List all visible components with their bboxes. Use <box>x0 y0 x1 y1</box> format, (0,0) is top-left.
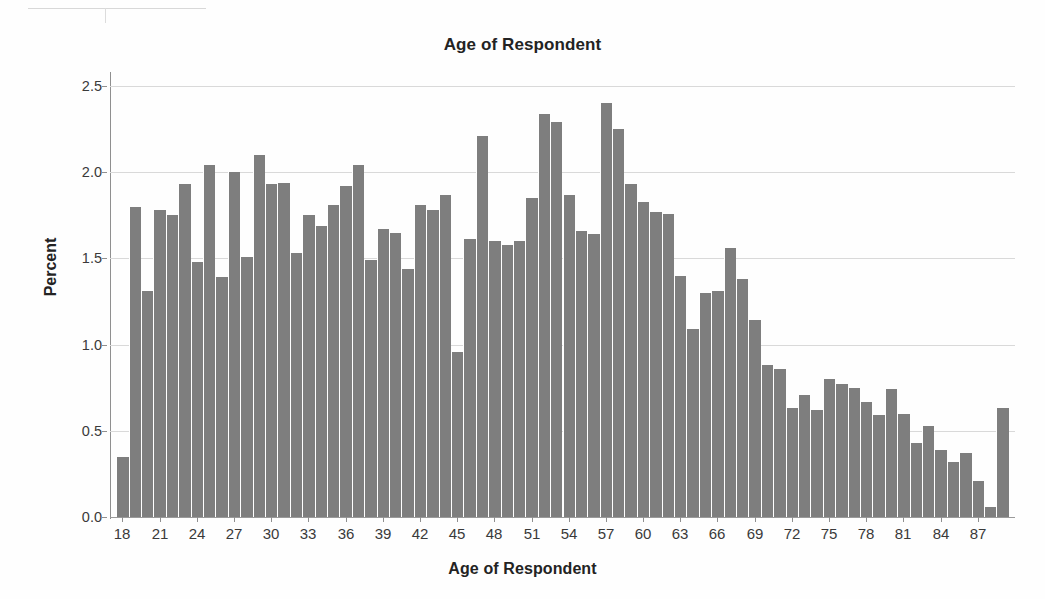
bar-age-66 <box>711 291 723 517</box>
bar-age-30 <box>265 184 277 517</box>
bar-age-31 <box>277 183 289 517</box>
bar-age-34 <box>315 226 327 517</box>
x-tick-label-42: 42 <box>400 526 440 541</box>
x-tick-label-69: 69 <box>735 526 775 541</box>
x-tick-label-84: 84 <box>921 526 961 541</box>
bar-age-43 <box>426 210 438 517</box>
bar-age-51 <box>525 198 537 517</box>
bar-age-45 <box>451 352 463 518</box>
bar-age-80 <box>885 389 897 517</box>
bar-age-84 <box>934 450 946 517</box>
y-tick-label-1.5: 1.5 <box>58 251 102 266</box>
bar-age-49 <box>501 245 513 517</box>
x-tick-mark-66 <box>717 517 718 522</box>
bar-age-71 <box>773 369 785 517</box>
bar-age-85 <box>947 462 959 517</box>
bar-age-33 <box>302 215 314 517</box>
bar-age-76 <box>835 384 847 517</box>
bar-age-69 <box>748 320 760 517</box>
bar-age-68 <box>736 279 748 517</box>
x-tick-label-60: 60 <box>623 526 663 541</box>
bar-age-36 <box>339 186 351 517</box>
x-tick-label-57: 57 <box>586 526 626 541</box>
bar-age-62 <box>662 214 674 517</box>
x-tick-label-78: 78 <box>846 526 886 541</box>
bar-age-32 <box>290 253 302 517</box>
y-tick-mark-2.5 <box>102 86 107 87</box>
bar-age-60 <box>637 202 649 517</box>
y-axis-tick-labels: 0.00.51.01.52.02.5 <box>52 86 102 517</box>
gridline-2.0 <box>110 172 1015 173</box>
bar-age-53 <box>550 122 562 517</box>
bar-age-86 <box>959 453 971 517</box>
x-tick-mark-75 <box>829 517 830 522</box>
x-tick-mark-81 <box>903 517 904 522</box>
bar-age-81 <box>897 414 909 517</box>
y-tick-mark-1.5 <box>102 258 107 259</box>
y-tick-label-0.5: 0.5 <box>58 424 102 439</box>
x-tick-label-75: 75 <box>809 526 849 541</box>
bar-age-89 <box>996 408 1008 517</box>
plot-area <box>110 86 1015 517</box>
bar-age-73 <box>798 395 810 517</box>
bar-age-35 <box>327 205 339 517</box>
y-tick-label-1.0: 1.0 <box>58 338 102 353</box>
x-tick-mark-24 <box>197 517 198 522</box>
x-tick-label-33: 33 <box>288 526 328 541</box>
x-tick-mark-21 <box>160 517 161 522</box>
x-tick-mark-48 <box>494 517 495 522</box>
bar-age-56 <box>587 234 599 517</box>
bar-age-77 <box>848 388 860 517</box>
bar-age-39 <box>377 229 389 517</box>
bar-age-75 <box>823 379 835 517</box>
bar-age-27 <box>228 172 240 517</box>
bar-age-64 <box>686 329 698 517</box>
x-axis-title: Age of Respondent <box>0 560 1045 578</box>
x-tick-label-45: 45 <box>437 526 477 541</box>
bar-age-20 <box>141 291 153 517</box>
x-tick-label-51: 51 <box>512 526 552 541</box>
y-tick-label-2.0: 2.0 <box>58 165 102 180</box>
histogram-screenshot: Age of Respondent Percent 0.00.51.01.52.… <box>0 0 1045 599</box>
y-tick-label-0.0: 0.0 <box>58 510 102 525</box>
y-tick-mark-0.0 <box>102 517 107 518</box>
x-tick-label-72: 72 <box>772 526 812 541</box>
x-tick-mark-27 <box>234 517 235 522</box>
bar-age-52 <box>538 114 550 517</box>
x-tick-mark-18 <box>122 517 123 522</box>
y-tick-mark-1.0 <box>102 345 107 346</box>
bar-age-88 <box>984 507 996 517</box>
x-tick-mark-39 <box>383 517 384 522</box>
bar-age-46 <box>463 239 475 517</box>
x-tick-label-54: 54 <box>549 526 589 541</box>
x-tick-label-27: 27 <box>214 526 254 541</box>
bar-age-57 <box>600 103 612 517</box>
bar-age-38 <box>364 260 376 517</box>
y-tick-label-2.5: 2.5 <box>58 79 102 94</box>
x-tick-label-66: 66 <box>697 526 737 541</box>
bar-age-61 <box>649 212 661 517</box>
x-tick-label-30: 30 <box>251 526 291 541</box>
bar-age-63 <box>674 276 686 517</box>
bar-age-40 <box>389 233 401 517</box>
x-tick-mark-57 <box>606 517 607 522</box>
bar-age-50 <box>513 241 525 517</box>
x-tick-label-18: 18 <box>102 526 142 541</box>
x-tick-mark-45 <box>457 517 458 522</box>
bar-age-47 <box>476 136 488 517</box>
bar-age-28 <box>240 257 252 517</box>
x-tick-label-21: 21 <box>140 526 180 541</box>
bar-age-83 <box>922 426 934 517</box>
bar-age-54 <box>563 195 575 517</box>
bar-age-79 <box>872 415 884 517</box>
bar-age-55 <box>575 231 587 517</box>
bar-age-70 <box>761 365 773 517</box>
x-tick-mark-69 <box>755 517 756 522</box>
x-tick-mark-33 <box>308 517 309 522</box>
bar-age-25 <box>203 165 215 517</box>
x-tick-mark-78 <box>866 517 867 522</box>
x-axis-ticks: 1821242730333639424548515457606366697275… <box>110 517 1015 525</box>
bar-age-59 <box>624 184 636 517</box>
bar-age-24 <box>191 262 203 517</box>
x-tick-mark-84 <box>941 517 942 522</box>
